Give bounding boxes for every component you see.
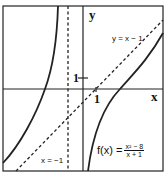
y-axis-label: y (89, 8, 96, 21)
oblique-asymptote-label: y = x − 1 (112, 35, 143, 43)
formula-fraction: x² − 8 x + 1 (124, 143, 144, 158)
x-axis-label: x (151, 90, 158, 103)
formula-denominator: x + 1 (127, 151, 142, 158)
x-tick-label: 1 (94, 93, 100, 105)
formula-numerator: x² − 8 (124, 143, 144, 151)
curve-left-branch (3, 6, 58, 163)
vertical-asymptote-label: x = −1 (41, 157, 63, 165)
y-tick-label: 1 (73, 72, 79, 84)
formula-lhs: f(x) = (97, 145, 122, 156)
function-formula: f(x) = x² − 8 x + 1 (97, 143, 144, 158)
